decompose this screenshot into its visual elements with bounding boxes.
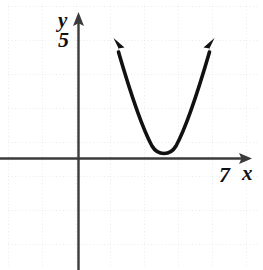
x-axis-tick-label-7: 7 [219,164,230,186]
y-axis-tick-label-5: 5 [58,29,69,51]
graph-figure: y x 5 7 [0,0,263,270]
grid-lines [6,4,258,268]
x-axis-label: x [242,163,253,184]
coordinate-plane-svg [0,0,263,270]
